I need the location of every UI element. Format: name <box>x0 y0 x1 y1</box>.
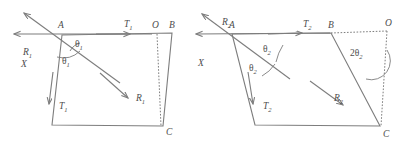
figure-canvas: R1 X A T1 O B θ1 θ1 T1 R1 C <box>0 0 401 142</box>
label-T2-horizontal: T2 <box>303 19 312 31</box>
label-theta2-lower: θ2 <box>249 63 258 75</box>
label-R1-resultant: R1 <box>135 93 145 105</box>
dotted-line-b-to-o <box>331 31 387 33</box>
label-C-right: C <box>383 129 390 139</box>
label-two-theta2: 2θ2 <box>350 48 363 60</box>
label-T1-horizontal: T1 <box>124 19 133 31</box>
label-A-right: A <box>228 20 235 30</box>
label-T2-down: T2 <box>263 101 272 113</box>
label-B-right: B <box>328 20 334 30</box>
label-theta2-upper: θ2 <box>263 44 272 56</box>
r1-resultant-arrow <box>100 73 128 98</box>
label-B-left: B <box>169 20 175 30</box>
r2-incoming-vector <box>202 14 290 79</box>
label-X-left: X <box>20 59 28 69</box>
label-A-left: A <box>57 20 64 30</box>
label-R1-incoming: R1 <box>22 47 32 59</box>
diagram-right: R2 X A T2 B O θ2 θ2 2θ2 T2 R2 C <box>196 14 392 139</box>
label-O-left: O <box>152 20 159 30</box>
label-O-right: O <box>385 18 392 28</box>
vector-diagram-pair: R1 X A T1 O B θ1 θ1 T1 R1 C <box>0 0 401 142</box>
theta2-upper-arc <box>276 45 283 62</box>
label-R2-resultant: R2 <box>333 93 344 105</box>
label-theta1-upper: θ1 <box>75 39 83 51</box>
label-T1-down: T1 <box>59 101 68 113</box>
t1-down-arrow <box>49 72 53 104</box>
parallelogram-right <box>232 33 380 126</box>
two-theta2-arc <box>366 50 390 80</box>
diagram-left: R1 X A T1 O B θ1 θ1 T1 R1 C <box>14 13 175 137</box>
dotted-line-o-to-c <box>157 34 161 126</box>
label-X-right: X <box>197 58 205 68</box>
label-C-left: C <box>166 127 173 137</box>
dotted-line-o-to-c-right <box>381 31 387 126</box>
